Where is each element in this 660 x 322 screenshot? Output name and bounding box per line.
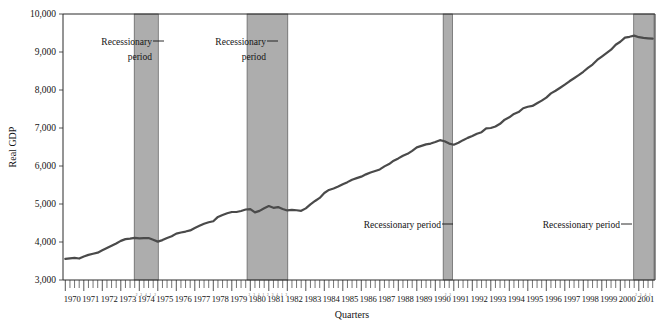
band-quarter-mark: 1: [281, 293, 283, 297]
y-axis-ticks: [59, 14, 63, 280]
band-quarter-mark: 4: [276, 293, 278, 297]
x-tick-label: 1997: [563, 294, 581, 304]
annotation-2-line2: period: [242, 52, 267, 62]
x-tick-label: 1996: [545, 294, 563, 304]
x-tick-label: 1989: [415, 294, 432, 304]
y-tick-label: 3,000: [35, 275, 57, 285]
band-quarter-mark: 2: [445, 293, 447, 297]
x-tick-label: 1998: [582, 294, 599, 304]
annotations-layer: Recessionary period Recessionary period …: [101, 37, 632, 230]
x-tick-label: 2000: [619, 294, 636, 304]
chart-svg: 3,0004,0005,0006,0007,0008,0009,00010,00…: [0, 0, 660, 322]
x-tick-label: 1994: [508, 294, 526, 304]
y-axis-title: Real GDP: [7, 126, 18, 167]
annotation-2-line1: Recessionary: [215, 37, 266, 47]
y-tick-label: 8,000: [35, 85, 57, 95]
x-tick-label: 1986: [360, 294, 378, 304]
band-quarter-mark: 2: [136, 293, 138, 297]
x-tick-label: 1978: [212, 294, 229, 304]
y-tick-label: 4,000: [35, 237, 57, 247]
band-quarter-mark: 3: [140, 293, 142, 297]
band-quarter-mark: 1: [150, 293, 152, 297]
band-quarter-mark: 2: [267, 293, 269, 297]
y-tick-label: 5,000: [35, 199, 57, 209]
x-tick-label: 1973: [119, 294, 136, 304]
x-tick-label: 1972: [101, 294, 118, 304]
annotation-1-line2: period: [128, 52, 153, 62]
real-gdp-recession-chart: 3,0004,0005,0006,0007,0008,0009,00010,00…: [0, 0, 660, 322]
x-tick-label: 1995: [526, 294, 543, 304]
x-tick-label: 1985: [341, 294, 358, 304]
x-tick-label: 1984: [323, 294, 341, 304]
x-tick-label: 1982: [286, 294, 303, 304]
x-tick-label: 1983: [304, 294, 321, 304]
band-quarter-mark: 4: [145, 293, 147, 297]
y-axis-labels: 3,0004,0005,0006,0007,0008,0009,00010,00…: [30, 9, 56, 285]
annotation-3: Recessionary period: [364, 220, 453, 230]
band-quarter-mark: 2: [635, 293, 637, 297]
band-quarter-mark: 3: [253, 293, 255, 297]
band-quarter-mark: 4: [644, 293, 646, 297]
recession-bands: [134, 14, 654, 280]
band-quarter-mark: 3: [640, 293, 642, 297]
x-tick-label: 1987: [378, 294, 396, 304]
x-tick-label: 1992: [471, 294, 488, 304]
band-quarter-mark: 1: [262, 293, 264, 297]
band-quarter-mark: 1: [649, 293, 651, 297]
x-tick-label: 1988: [397, 294, 414, 304]
x-axis-title: Quarters: [335, 309, 370, 320]
x-tick-label: 1977: [193, 294, 211, 304]
x-tick-label: 1979: [230, 294, 247, 304]
recession-band-3: [443, 14, 452, 280]
annotation-1-line1: Recessionary: [101, 37, 152, 47]
y-tick-label: 9,000: [35, 47, 57, 57]
annotation-4-line1: Recessionary period: [543, 220, 621, 230]
band-quarter-mark: 2: [154, 293, 156, 297]
annotation-3-line1: Recessionary period: [364, 220, 442, 230]
band-quarter-mark: 3: [272, 293, 274, 297]
x-tick-label: 1971: [82, 294, 99, 304]
x-tick-label: 1993: [489, 294, 506, 304]
x-axis-labels: 1970197119721973197419751976197719781979…: [64, 294, 655, 304]
y-tick-label: 6,000: [35, 161, 57, 171]
y-tick-label: 10,000: [30, 9, 56, 19]
x-tick-label: 1991: [452, 294, 469, 304]
x-tick-label: 1976: [175, 294, 193, 304]
annotation-4: Recessionary period: [543, 220, 632, 230]
x-tick-label: 1975: [156, 294, 173, 304]
band-quarter-mark: 2: [286, 293, 288, 297]
recession-band-4: [634, 14, 654, 280]
x-axis-quarter-ticks: [65, 280, 652, 291]
band-quarter-mark: 3: [449, 293, 451, 297]
band-quarter-mark: 2: [249, 293, 251, 297]
x-tick-label: 1999: [600, 294, 617, 304]
y-tick-label: 7,000: [35, 123, 57, 133]
x-tick-label: 1970: [64, 294, 81, 304]
band-quarter-mark: 4: [258, 293, 260, 297]
